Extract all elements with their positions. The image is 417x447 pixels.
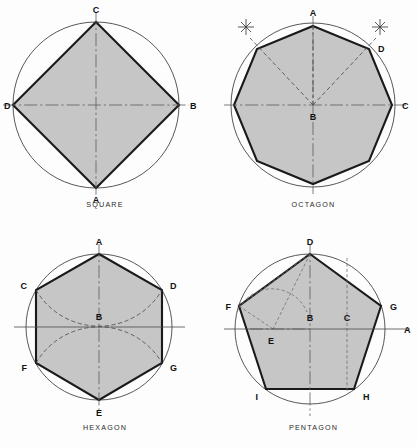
caption-square: SQUARE [0, 200, 210, 209]
aux-label-a: A [404, 325, 411, 335]
caption-pentagon: PENTAGON [210, 423, 417, 432]
vertex-label-f: F [226, 302, 232, 312]
arc-mark-right-icon [372, 19, 388, 35]
panel-square: C B A D [0, 0, 210, 224]
vertex-label-c: C [93, 5, 100, 15]
panel-octagon: A D C B [210, 0, 417, 224]
vertex-label-e: E [96, 408, 102, 418]
vertex-label-d: D [307, 237, 314, 247]
vertex-label-h: H [363, 392, 370, 402]
center-label-b: B [307, 313, 314, 323]
vertex-label-d: D [4, 101, 11, 111]
arc-mark-left-icon [238, 19, 254, 35]
vertex-label-d: D [378, 44, 385, 54]
vertex-label-a: A [96, 237, 103, 247]
panel-hexagon: A D G E F C B [0, 224, 210, 447]
vertex-label-g: G [390, 302, 397, 312]
vertex-label-d: D [170, 281, 177, 291]
vertex-label-c: C [21, 281, 28, 291]
aux-label-e: E [268, 336, 274, 346]
vertex-label-b: B [190, 101, 197, 111]
vertex-label-i: I [255, 392, 258, 402]
aux-label-c: C [344, 313, 351, 323]
panel-pentagon: D G H I F B E C A [210, 224, 417, 447]
caption-hexagon: HEXAGON [0, 423, 210, 432]
vertex-label-f: F [22, 363, 28, 373]
caption-octagon: OCTAGON [210, 200, 417, 209]
vertex-label-c: C [402, 101, 409, 111]
vertex-label-a: A [310, 8, 317, 18]
vertex-label-g: G [170, 363, 177, 373]
figure-sheet: C B A D SQUARE [0, 0, 417, 447]
center-label-b: B [96, 312, 103, 322]
center-label-b: B [310, 112, 317, 122]
